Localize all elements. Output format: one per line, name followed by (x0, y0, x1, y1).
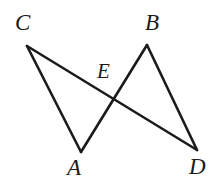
segment-group (27, 45, 197, 152)
vertex-label-E: E (97, 61, 110, 82)
vertex-label-D: D (189, 155, 206, 178)
geometry-canvas (0, 0, 217, 196)
vertex-label-C: C (15, 11, 30, 34)
vertex-label-B: B (145, 11, 159, 34)
segment-AB (81, 45, 147, 152)
geometry-figure: C B E A D (0, 0, 217, 196)
vertex-label-A: A (67, 156, 81, 179)
